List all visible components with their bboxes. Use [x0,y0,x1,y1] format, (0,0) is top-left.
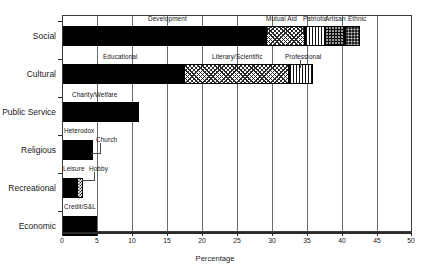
segment-literary-scientific[interactable] [184,64,289,84]
ylabel-cultural: Cultural [0,69,56,79]
xtick-label-0: 0 [60,237,64,244]
segment-charity-welfare[interactable] [63,102,139,122]
bar-track-cultural [63,64,313,84]
bar-row-religious [63,140,411,160]
xtick-20 [202,232,203,236]
ytick-religious [58,135,62,136]
segment-label-charity-welfare: Charity/Welfare [72,91,117,98]
segment-label-patriotic: Patriotic [303,15,327,22]
gridline-35 [307,16,308,231]
gridline-25 [237,16,238,231]
xtick-30 [272,232,273,236]
xtick-50 [411,232,412,236]
segment-educational[interactable] [63,64,184,84]
gridline-10 [132,16,133,231]
ylabel-economic: Economic [0,221,56,231]
xtick-label-15: 15 [163,237,171,244]
bar-row-recreational [63,178,411,198]
xtick-0 [62,232,63,236]
xtick-45 [377,232,378,236]
xtick-15 [167,232,168,236]
segment-label-credit-sl: Credit/S&L [64,203,96,210]
segment-label-heterodox: Heterodox [64,127,94,134]
segment-mutual-aid[interactable] [266,26,305,46]
xtick-label-40: 40 [338,237,346,244]
segment-development[interactable] [63,26,266,46]
x-axis-title: Percentage [0,254,430,263]
xtick-40 [342,232,343,236]
bar-track-recreational [63,178,83,198]
xtick-label-30: 30 [268,237,276,244]
leader-church-horizontal [91,153,101,154]
segment-label-development: Development [148,15,187,22]
gridline-45 [377,16,378,231]
segment-leisure[interactable] [63,178,77,198]
gridline-15 [167,16,168,231]
bar-track-religious [63,140,93,160]
ytick-public-service [58,97,62,98]
ylabel-social: Social [0,31,56,41]
xtick-35 [307,232,308,236]
ylabel-public-service: Public Service [0,107,56,117]
ytick-recreational [58,173,62,174]
ytick-economic [58,211,62,212]
bar-chart: Development Mutual Aid Patriotic Artisan… [0,0,430,275]
ylabel-religious: Religious [0,145,56,155]
xtick-5 [97,232,98,236]
gridline-5 [97,16,98,231]
plot-area [62,15,412,232]
segment-ethnic[interactable] [345,26,360,46]
segment-artisan[interactable] [325,26,345,46]
ytick-social [58,21,62,22]
bar-row-public-service [63,102,411,122]
xtick-label-50: 50 [407,237,415,244]
bar-row-cultural [63,64,411,84]
xtick-10 [132,232,133,236]
xtick-25 [237,232,238,236]
xtick-label-5: 5 [95,237,99,244]
leader-professional [300,60,301,68]
ylabel-recreational: Recreational [0,183,56,193]
segment-church[interactable] [91,140,93,160]
xtick-label-25: 25 [233,237,241,244]
gridline-30 [272,16,273,231]
segment-hobby[interactable] [77,178,83,198]
segment-label-leisure: Leisure [63,165,85,172]
xtick-label-45: 45 [373,237,381,244]
segment-label-professional: Professional [285,53,321,60]
segment-heterodox[interactable] [63,140,91,160]
segment-label-educational: Educational [103,53,138,60]
segment-label-hobby: Hobby [89,165,108,172]
xtick-label-20: 20 [198,237,206,244]
xtick-label-35: 35 [303,237,311,244]
gridline-40 [342,16,343,231]
xtick-label-10: 10 [128,237,136,244]
bar-row-social [63,26,411,46]
segment-label-mutual-aid: Mutual Aid [266,15,297,22]
segment-label-literary-scientific: Literary/Scientific [212,53,263,60]
leader-hobby-horizontal [82,180,95,181]
bar-track-public-service [63,102,139,122]
ytick-cultural [58,59,62,60]
segment-label-church: Church [96,136,117,143]
bar-track-social [63,26,361,46]
segment-label-ethnic: Ethnic [348,15,366,22]
segment-patriotic[interactable] [305,26,325,46]
segment-label-artisan: Artisan [325,15,346,22]
gridline-20 [202,16,203,231]
